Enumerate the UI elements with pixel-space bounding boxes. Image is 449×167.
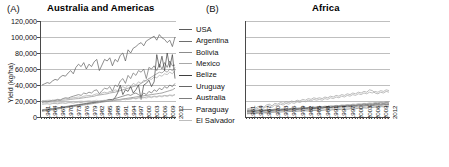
x-tick-mark bbox=[335, 117, 336, 119]
x-tick-mark bbox=[143, 117, 144, 119]
x-tick-mark bbox=[164, 117, 165, 119]
x-tick-mark bbox=[135, 117, 136, 119]
y-tick-label: 0 bbox=[3, 113, 37, 122]
x-tick-mark bbox=[299, 117, 300, 119]
y-tick-mark bbox=[37, 101, 40, 102]
x-tick-mark bbox=[106, 117, 107, 119]
x-tick-mark bbox=[85, 117, 86, 119]
x-tick-mark bbox=[271, 117, 272, 119]
x-tick-mark bbox=[101, 117, 102, 119]
x-tick-mark bbox=[72, 117, 73, 119]
x-tick-mark bbox=[360, 117, 361, 119]
x-tick-mark bbox=[148, 117, 149, 119]
legend-swatch-icon bbox=[179, 98, 192, 99]
x-tick-mark bbox=[277, 117, 278, 119]
x-tick-mark bbox=[332, 117, 333, 119]
y-tick-mark bbox=[37, 85, 40, 86]
x-tick-mark bbox=[145, 117, 146, 119]
x-tick-mark bbox=[252, 117, 253, 119]
panel-b-letter: (B) bbox=[206, 3, 219, 14]
panel-b-plot-area bbox=[245, 21, 390, 118]
x-tick-mark bbox=[166, 117, 167, 119]
x-tick-mark bbox=[327, 117, 328, 119]
x-tick-mark bbox=[54, 117, 55, 119]
x-tick-mark bbox=[349, 117, 350, 119]
x-tick-mark bbox=[91, 117, 92, 119]
x-tick-mark bbox=[346, 117, 347, 119]
x-tick-mark bbox=[293, 117, 294, 119]
y-tick-label: 80,000 bbox=[3, 49, 37, 58]
x-tick-mark bbox=[174, 117, 175, 119]
x-tick-mark bbox=[83, 117, 84, 119]
x-tick-mark bbox=[377, 117, 378, 119]
panel-b: (B) Africa NigeriaEthiopiaCameroonMaliTo… bbox=[206, 0, 449, 167]
x-tick-mark bbox=[363, 117, 364, 119]
x-tick-mark bbox=[249, 117, 250, 119]
y-tick-label: 20,000 bbox=[3, 97, 37, 106]
figure-two-panel-yield-chart: (A) Australia and Americas Yield (kg/ha)… bbox=[0, 0, 449, 167]
x-tick-mark bbox=[296, 117, 297, 119]
x-tick-mark bbox=[313, 117, 314, 119]
x-tick-mark bbox=[62, 117, 63, 119]
series-lines bbox=[41, 21, 176, 117]
x-tick-mark bbox=[158, 117, 159, 119]
x-tick-mark bbox=[109, 117, 110, 119]
x-tick-mark bbox=[137, 117, 138, 119]
legend-swatch-icon bbox=[179, 29, 192, 30]
x-tick-mark bbox=[70, 117, 71, 119]
x-tick-mark bbox=[257, 117, 258, 119]
x-tick-label: 2012 bbox=[391, 106, 398, 119]
x-tick-mark bbox=[171, 117, 172, 119]
x-tick-mark bbox=[119, 117, 120, 119]
x-tick-mark bbox=[51, 117, 52, 119]
x-tick-mark bbox=[343, 117, 344, 119]
x-tick-mark bbox=[260, 117, 261, 119]
x-tick-mark bbox=[67, 117, 68, 119]
x-tick-mark bbox=[369, 117, 370, 119]
x-tick-mark bbox=[104, 117, 105, 119]
x-tick-mark bbox=[263, 117, 264, 119]
x-tick-mark bbox=[127, 117, 128, 119]
x-tick-mark bbox=[156, 117, 157, 119]
x-tick-mark bbox=[374, 117, 375, 119]
x-tick-mark bbox=[338, 117, 339, 119]
x-tick-mark bbox=[318, 117, 319, 119]
x-tick-mark bbox=[122, 117, 123, 119]
x-tick-mark bbox=[59, 117, 60, 119]
x-tick-mark bbox=[49, 117, 50, 119]
x-tick-mark bbox=[169, 117, 170, 119]
x-tick-mark bbox=[114, 117, 115, 119]
x-tick-mark bbox=[324, 117, 325, 119]
legend-swatch-icon bbox=[179, 41, 192, 42]
y-tick-mark bbox=[37, 37, 40, 38]
panel-b-title: Africa bbox=[312, 2, 340, 13]
x-tick-mark bbox=[161, 117, 162, 119]
series-line-belize bbox=[42, 53, 175, 111]
x-tick-mark bbox=[366, 117, 367, 119]
x-tick-mark bbox=[117, 117, 118, 119]
x-tick-mark bbox=[151, 117, 152, 119]
panel-a-title: Australia and Americas bbox=[47, 2, 154, 13]
x-tick-mark bbox=[382, 117, 383, 119]
y-tick-label: 40,000 bbox=[3, 81, 37, 90]
x-tick-mark bbox=[98, 117, 99, 119]
legend-swatch-icon bbox=[179, 52, 192, 53]
y-tick-mark bbox=[37, 69, 40, 70]
y-tick-label: 120,000 bbox=[3, 17, 37, 26]
x-tick-mark bbox=[75, 117, 76, 119]
x-tick-mark bbox=[355, 117, 356, 119]
x-tick-mark bbox=[291, 117, 292, 119]
x-tick-mark bbox=[357, 117, 358, 119]
legend-swatch-icon bbox=[179, 63, 192, 64]
x-tick-mark bbox=[371, 117, 372, 119]
x-tick-label: 2012 bbox=[177, 106, 184, 119]
legend-swatch-icon bbox=[179, 86, 192, 87]
x-tick-mark bbox=[316, 117, 317, 119]
x-tick-mark bbox=[304, 117, 305, 119]
legend-swatch-icon bbox=[179, 120, 192, 121]
x-tick-mark bbox=[64, 117, 65, 119]
x-tick-mark bbox=[274, 117, 275, 119]
x-tick-mark bbox=[124, 117, 125, 119]
x-tick-mark bbox=[307, 117, 308, 119]
x-tick-mark bbox=[80, 117, 81, 119]
